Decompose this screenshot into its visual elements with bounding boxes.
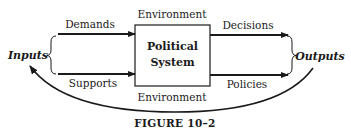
supports-label: Supports bbox=[69, 77, 117, 89]
environment-top-label: Environment bbox=[138, 8, 208, 20]
demands-label: Demands bbox=[65, 18, 115, 30]
political-label: Political bbox=[147, 40, 198, 53]
figure-caption: FIGURE 10–2 bbox=[134, 117, 215, 129]
outputs-label: Outputs bbox=[295, 50, 345, 63]
policies-label: Policies bbox=[227, 78, 268, 90]
decisions-label: Decisions bbox=[222, 19, 273, 31]
environment-bottom-label: Environment bbox=[138, 91, 208, 103]
inputs-label: Inputs bbox=[7, 49, 48, 62]
feedback-arc-arrow bbox=[30, 66, 313, 112]
inputs-brace bbox=[47, 36, 56, 74]
system-label: System bbox=[150, 56, 195, 69]
political-system-diagram: Environment Political System Environment… bbox=[0, 0, 351, 135]
